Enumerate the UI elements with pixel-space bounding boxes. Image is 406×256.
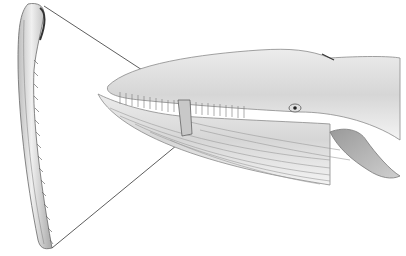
baleen-plate: [18, 3, 53, 248]
whale-head: [98, 49, 400, 185]
pectoral-fin: [330, 129, 400, 178]
whale-illustration: [0, 0, 406, 256]
